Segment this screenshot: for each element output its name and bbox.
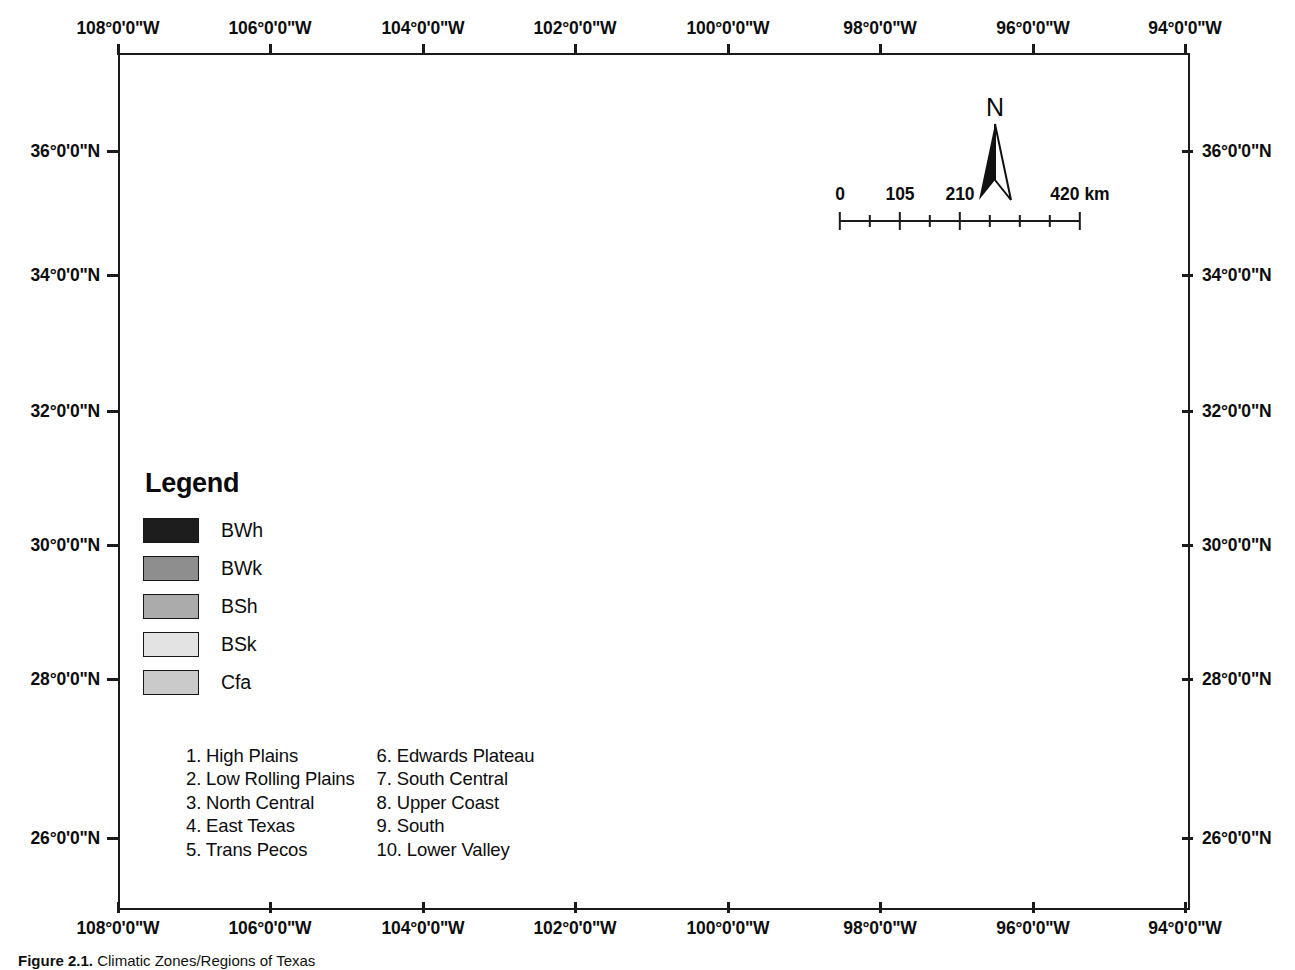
- region-index-item-6: 6. Edwards Plateau: [377, 744, 535, 767]
- lon-tick-top-102: [574, 44, 577, 55]
- region-index: 1. High Plains 2. Low Rolling Plains 3. …: [186, 744, 534, 861]
- lon-tick-top-106: [269, 44, 272, 55]
- scalebar: 0 105 210 420 km: [840, 184, 1080, 230]
- scalebar-tick-major-420: [1079, 212, 1081, 230]
- scalebar-label-420: 420 km: [1050, 184, 1109, 205]
- scalebar-tick-minor-2: [929, 215, 931, 227]
- lon-label-top-94: 94°0'0"W: [1148, 18, 1221, 39]
- figure-caption-label: Figure 2.1.: [18, 952, 93, 969]
- lat-label-right-34: 34°0'0"N: [1202, 265, 1271, 286]
- lon-tick-bottom-100: [727, 902, 730, 913]
- lat-label-left-28: 28°0'0"N: [0, 669, 100, 690]
- scalebar-tick-major-105: [899, 212, 901, 230]
- lat-label-left-30: 30°0'0"N: [0, 535, 100, 556]
- lat-tick-right-28: [1182, 678, 1193, 681]
- lat-label-left-34: 34°0'0"N: [0, 265, 100, 286]
- lon-label-top-104: 104°0'0"W: [382, 18, 465, 39]
- lon-tick-top-108: [117, 44, 120, 55]
- lat-label-left-26: 26°0'0"N: [0, 828, 100, 849]
- lat-tick-left-26: [107, 837, 118, 840]
- lon-label-top-108: 108°0'0"W: [77, 18, 160, 39]
- scalebar-tick-major-210: [959, 212, 961, 230]
- figure-caption-text: Climatic Zones/Regions of Texas: [97, 952, 315, 969]
- lat-label-left-32: 32°0'0"N: [0, 401, 100, 422]
- figure-caption: Figure 2.1. Climatic Zones/Regions of Te…: [18, 952, 1278, 969]
- legend-item-cfa: Cfa: [143, 663, 353, 701]
- legend-swatch-cfa: [143, 670, 199, 695]
- lon-label-top-100: 100°0'0"W: [687, 18, 770, 39]
- region-index-item-2: 2. Low Rolling Plains: [186, 767, 355, 790]
- lon-label-top-98: 98°0'0"W: [843, 18, 916, 39]
- lat-tick-right-36: [1182, 150, 1193, 153]
- lat-tick-right-32: [1182, 410, 1193, 413]
- legend-swatch-bsk: [143, 632, 199, 657]
- lon-tick-bottom-102: [574, 902, 577, 913]
- lon-tick-bottom-108: [117, 902, 120, 913]
- lat-label-right-26: 26°0'0"N: [1202, 828, 1271, 849]
- lon-tick-bottom-96: [1032, 902, 1035, 913]
- lon-label-top-102: 102°0'0"W: [534, 18, 617, 39]
- lon-tick-bottom-106: [269, 902, 272, 913]
- legend-label-bsk: BSk: [221, 633, 256, 656]
- region-index-item-4: 4. East Texas: [186, 814, 355, 837]
- legend-swatch-bwh: [143, 518, 199, 543]
- legend-label-bwk: BWk: [221, 557, 262, 580]
- lon-tick-top-94: [1184, 44, 1187, 55]
- lon-tick-top-96: [1032, 44, 1035, 55]
- region-index-item-1: 1. High Plains: [186, 744, 355, 767]
- scalebar-labels: 0 105 210 420 km: [840, 184, 1080, 208]
- scalebar-label-0: 0: [835, 184, 845, 205]
- region-index-item-5: 5. Trans Pecos: [186, 838, 355, 861]
- lon-label-bottom-100: 100°0'0"W: [687, 918, 770, 939]
- lon-label-bottom-106: 106°0'0"W: [229, 918, 312, 939]
- lat-tick-left-32: [107, 410, 118, 413]
- legend-label-bsh: BSh: [221, 595, 258, 618]
- lon-label-bottom-98: 98°0'0"W: [843, 918, 916, 939]
- lon-label-bottom-96: 96°0'0"W: [996, 918, 1069, 939]
- region-index-item-9: 9. South: [377, 814, 535, 837]
- lon-tick-bottom-104: [422, 902, 425, 913]
- legend: Legend BWh BWk BSh BSk Cfa: [143, 468, 353, 701]
- lon-label-bottom-108: 108°0'0"W: [77, 918, 160, 939]
- region-index-item-3: 3. North Central: [186, 791, 355, 814]
- region-index-column-left: 1. High Plains 2. Low Rolling Plains 3. …: [186, 744, 355, 861]
- lon-tick-bottom-98: [879, 902, 882, 913]
- lat-label-right-32: 32°0'0"N: [1202, 401, 1271, 422]
- figure-page: 1 2 3 4 5 6 7 8 9 10 108°0'0"W 106°0'0"W…: [0, 0, 1295, 970]
- lon-tick-top-98: [879, 44, 882, 55]
- lon-label-top-106: 106°0'0"W: [229, 18, 312, 39]
- lat-tick-left-28: [107, 678, 118, 681]
- scalebar-tick-minor-3: [989, 215, 991, 227]
- lat-tick-left-34: [107, 274, 118, 277]
- scalebar-tick-minor-4: [1019, 215, 1021, 227]
- north-arrow-letter: N: [968, 95, 1022, 120]
- lat-tick-right-30: [1182, 544, 1193, 547]
- legend-swatch-bsh: [143, 594, 199, 619]
- region-index-item-7: 7. South Central: [377, 767, 535, 790]
- legend-title: Legend: [145, 468, 353, 499]
- lon-label-top-96: 96°0'0"W: [996, 18, 1069, 39]
- legend-item-bwk: BWk: [143, 549, 353, 587]
- scalebar-label-210: 210: [945, 184, 974, 205]
- scalebar-axis: [840, 212, 1080, 230]
- lat-tick-right-34: [1182, 274, 1193, 277]
- lat-label-left-36: 36°0'0"N: [0, 141, 100, 162]
- scalebar-label-105: 105: [885, 184, 914, 205]
- lon-tick-bottom-94: [1184, 902, 1187, 913]
- legend-item-bsk: BSk: [143, 625, 353, 663]
- lon-label-bottom-104: 104°0'0"W: [382, 918, 465, 939]
- lat-label-right-28: 28°0'0"N: [1202, 669, 1271, 690]
- legend-label-cfa: Cfa: [221, 671, 251, 694]
- lat-label-right-30: 30°0'0"N: [1202, 535, 1271, 556]
- region-index-item-8: 8. Upper Coast: [377, 791, 535, 814]
- legend-label-bwh: BWh: [221, 519, 263, 542]
- lon-label-bottom-102: 102°0'0"W: [534, 918, 617, 939]
- legend-item-bsh: BSh: [143, 587, 353, 625]
- region-index-column-right: 6. Edwards Plateau 7. South Central 8. U…: [377, 744, 535, 861]
- legend-swatch-bwk: [143, 556, 199, 581]
- scalebar-tick-minor-1: [869, 215, 871, 227]
- region-index-item-10: 10. Lower Valley: [377, 838, 535, 861]
- lon-label-bottom-94: 94°0'0"W: [1148, 918, 1221, 939]
- lat-label-right-36: 36°0'0"N: [1202, 141, 1271, 162]
- lat-tick-left-36: [107, 150, 118, 153]
